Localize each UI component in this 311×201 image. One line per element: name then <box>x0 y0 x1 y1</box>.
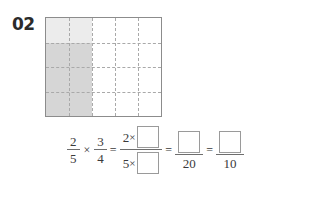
area-model-cell-r3-c2 <box>69 67 92 92</box>
area-model-cell-r2-c2 <box>69 43 92 68</box>
area-model-cells <box>46 18 161 116</box>
equals-operator-1: = <box>108 143 119 158</box>
area-model-cell-r1-c4 <box>115 18 138 43</box>
answer-box-denominator-1[interactable] <box>137 152 159 174</box>
area-model-cell-r4-c2 <box>69 92 92 117</box>
area-model-cell-r1-c3 <box>92 18 115 43</box>
area-model-cell-r3-c5 <box>138 67 161 92</box>
fraction-1-numerator: 2 <box>67 135 80 150</box>
answer-box-numerator-1[interactable] <box>137 126 159 148</box>
equals-operator-2: = <box>163 143 174 158</box>
area-model-cell-r1-c1 <box>46 18 69 43</box>
fraction-4-denominator: 20 <box>180 155 199 170</box>
problem-number: 02 <box>12 16 35 33</box>
equals-operator-3: = <box>204 143 215 158</box>
fraction-3-numerator: 2 × <box>120 126 163 150</box>
fraction-5-denominator: 10 <box>220 155 239 170</box>
area-model-grid <box>45 17 162 117</box>
area-model-cell-r2-c3 <box>92 43 115 68</box>
area-model-cell-r1-c5 <box>138 18 161 43</box>
fraction-4-numerator <box>175 131 203 155</box>
area-model-cell-r3-c4 <box>115 67 138 92</box>
area-model-cell-r4-c4 <box>115 92 138 117</box>
area-model-cell-r4-c5 <box>138 92 161 117</box>
fraction-over-twenty: 20 <box>175 131 203 170</box>
area-model-cell-r4-c3 <box>92 92 115 117</box>
fraction-1-denominator: 5 <box>67 150 80 165</box>
fraction-2-denominator: 4 <box>94 150 107 165</box>
area-model-cell-r3-c1 <box>46 67 69 92</box>
fraction-2-numerator: 3 <box>94 135 107 150</box>
area-model-cell-r2-c1 <box>46 43 69 68</box>
area-model-cell-r1-c2 <box>69 18 92 43</box>
multiply-operator-numerator: × <box>129 132 137 143</box>
answer-box-numerator-3[interactable] <box>219 131 241 153</box>
fraction-two-fifths: 2 5 <box>67 135 80 165</box>
fraction-three-fourths: 3 4 <box>94 135 107 165</box>
multiply-operator-denominator: × <box>129 158 137 169</box>
answer-box-numerator-2[interactable] <box>178 131 200 153</box>
area-model-cell-r3-c3 <box>92 67 115 92</box>
area-model-cell-r4-c1 <box>46 92 69 117</box>
fraction-3-denominator: 5 × <box>120 150 163 174</box>
area-model-cell-r2-c5 <box>138 43 161 68</box>
fraction-over-ten: 10 <box>216 131 244 170</box>
multiply-operator-1: × <box>81 143 94 158</box>
fraction-factored: 2 × 5 × <box>120 126 163 174</box>
fraction-5-numerator <box>216 131 244 155</box>
equation-row: 2 5 × 3 4 = 2 × 5 × = 20 = 10 <box>0 126 311 174</box>
area-model-cell-r2-c4 <box>115 43 138 68</box>
